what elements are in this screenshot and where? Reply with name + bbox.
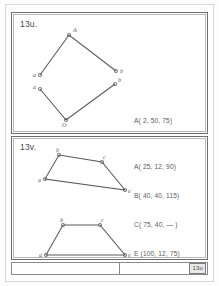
vertex-label-b4: b <box>60 216 63 223</box>
coordinate-line: A( 2, 50, 75) <box>134 116 180 126</box>
coordinate-line: A( 25, 12, 90) <box>134 162 180 172</box>
vertex-label-A: A <box>72 26 77 33</box>
vertex-label-b1: b <box>120 67 123 74</box>
vertex-label-e2: e <box>128 251 131 258</box>
vertex-label-O: O <box>62 121 67 128</box>
coordinate-line: B( 40, 40, 115) <box>134 191 180 201</box>
bottom-bar: 13u <box>11 262 208 275</box>
figure-slanted-quadrilateral <box>45 155 125 190</box>
vertex-label-a3: a <box>38 176 41 183</box>
figure-upper-top-polyline <box>40 35 116 75</box>
vertex-label-a4: a <box>39 251 42 258</box>
vertex-label-b3: b <box>56 146 59 153</box>
vertex-label-c1: c <box>103 153 106 160</box>
coordinate-line: C( 75, 40, — ) <box>134 220 180 230</box>
vertex-label-c2: c <box>101 216 104 223</box>
figure-upper-bottom-polyline <box>40 84 115 120</box>
coordinate-line: E (100, 12, 75) <box>134 249 180 259</box>
panel-bottom-coordinate-list: A( 25, 12, 90) B( 40, 40, 115) C( 75, 40… <box>134 143 180 277</box>
vertex-label-a2: a <box>33 83 36 90</box>
document-page: 13u. a A b a O b A( 2, 50, 75) B( 90, 65… <box>0 0 219 286</box>
vertex-label-b2: b <box>118 76 121 83</box>
panel-bottom: 13v. b c e a b c e a A( 25, 12, 90) B( <box>11 136 208 260</box>
vertex-label-a1: a <box>33 71 36 78</box>
panel-top: 13u. a A b a O b A( 2, 50, 75) B( 90, 65… <box>11 12 208 134</box>
figure-trapezoid <box>46 225 125 255</box>
page-stamp: 13u <box>189 263 206 274</box>
vertex-label-e1: e <box>128 187 131 194</box>
bottom-bar-left-cell <box>12 263 120 274</box>
bottom-bar-right-cell: 13u <box>120 263 207 274</box>
